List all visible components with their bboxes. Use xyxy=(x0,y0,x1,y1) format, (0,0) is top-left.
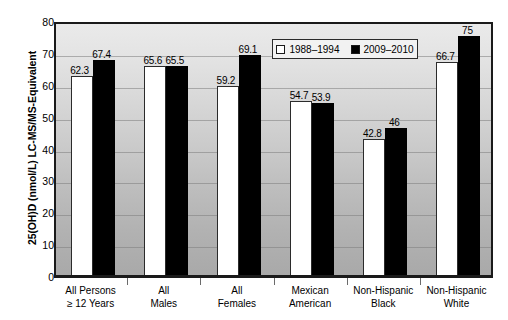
x-axis-separator-tick xyxy=(200,278,201,285)
gridline xyxy=(56,120,491,121)
x-axis-separator-tick xyxy=(347,278,348,285)
x-group-label-line: Mexican xyxy=(289,285,331,298)
gridline xyxy=(56,88,491,89)
gridline xyxy=(56,152,491,153)
legend-item-2009-2010: 2009–2010 xyxy=(351,44,414,55)
y-tick-label: 40 xyxy=(24,144,54,156)
y-tick-label: 30 xyxy=(24,175,54,187)
legend: 1988–1994 2009–2010 xyxy=(272,39,418,59)
gridline xyxy=(56,183,491,184)
x-group-label-line: All xyxy=(218,285,256,298)
legend-label-2009-2010: 2009–2010 xyxy=(364,44,414,55)
x-group-label: AllFemales xyxy=(218,285,256,310)
legend-swatch-dark-icon xyxy=(351,45,360,54)
y-tick-label: 60 xyxy=(24,80,54,92)
x-group-label-line: All Persons xyxy=(65,285,116,298)
x-axis-separator-tick xyxy=(274,278,275,285)
y-tick-label: 0 xyxy=(24,271,54,283)
x-group-label-line: White xyxy=(426,298,486,311)
x-group-label-line: Males xyxy=(150,298,177,311)
legend-label-1988-1994: 1988–1994 xyxy=(289,44,339,55)
bar-chart: 25(OH)D (nmol/L) LC-MS/MS-Equivalent 807… xyxy=(0,0,508,320)
bar-dark-5 xyxy=(458,36,480,275)
legend-swatch-light-icon xyxy=(276,45,285,54)
y-tick-label: 10 xyxy=(24,239,54,251)
bar-light-3 xyxy=(290,101,312,275)
bar-dark-3 xyxy=(312,103,334,275)
x-axis-separator-tick xyxy=(127,278,128,285)
bar-dark-2 xyxy=(239,55,261,275)
x-group-label: All Persons≥ 12 Years xyxy=(65,285,116,310)
bar-dark-0 xyxy=(93,60,115,275)
bar-dark-4 xyxy=(385,128,407,275)
y-tick-label: 80 xyxy=(24,16,54,28)
x-group-label-line: Non-Hispanic xyxy=(426,285,486,298)
x-group-label: AllMales xyxy=(150,285,177,310)
x-group-label-line: American xyxy=(289,298,331,311)
y-tick-label: 50 xyxy=(24,112,54,124)
x-group-label: MexicanAmerican xyxy=(289,285,331,310)
plot-area xyxy=(54,22,493,277)
bar-light-1 xyxy=(144,66,166,275)
x-group-label-line: All xyxy=(150,285,177,298)
y-tick-label: 20 xyxy=(24,207,54,219)
x-group-label-line: Black xyxy=(353,298,413,311)
x-axis-separator-tick xyxy=(420,278,421,285)
x-group-label-line: Females xyxy=(218,298,256,311)
bar-light-2 xyxy=(217,86,239,275)
bar-dark-1 xyxy=(166,66,188,275)
y-tick-label: 70 xyxy=(24,48,54,60)
x-group-label-line: Non-Hispanic xyxy=(353,285,413,298)
legend-item-1988-1994: 1988–1994 xyxy=(276,44,339,55)
bar-light-0 xyxy=(71,76,93,275)
x-group-label: Non-HispanicWhite xyxy=(426,285,486,310)
gridline xyxy=(56,247,491,248)
bar-light-5 xyxy=(436,62,458,275)
x-group-label: Non-HispanicBlack xyxy=(353,285,413,310)
y-axis-ticks: 80706050403020100 xyxy=(14,0,54,320)
bar-light-4 xyxy=(363,139,385,275)
x-group-label-line: ≥ 12 Years xyxy=(65,298,116,311)
gridline xyxy=(56,215,491,216)
